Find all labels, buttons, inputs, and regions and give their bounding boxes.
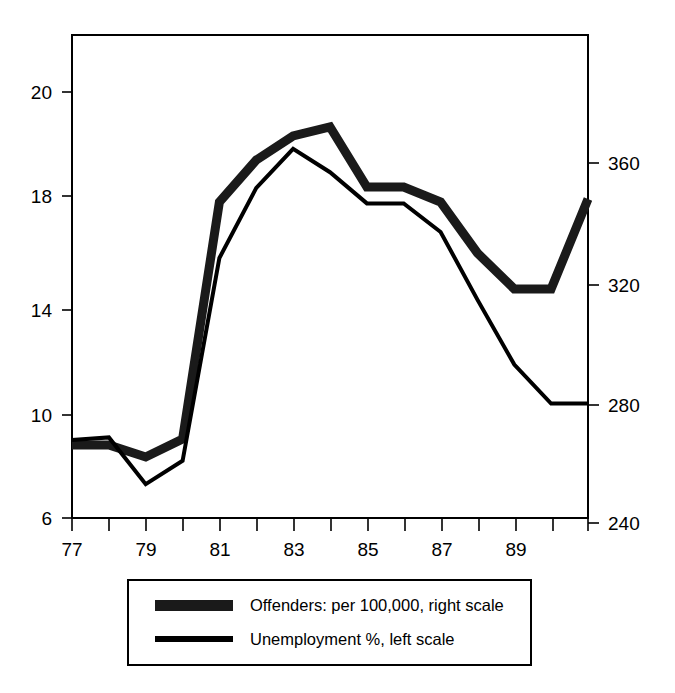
series-line-offenders (72, 127, 588, 457)
x-tick-label-85: 85 (357, 539, 378, 560)
x-tick-label-79: 79 (135, 539, 156, 560)
left-tick-label-10: 10 (31, 405, 52, 426)
legend-swatch-offenders-icon (155, 600, 233, 611)
right-tick-label-280: 280 (608, 395, 640, 416)
x-tick-label-77: 77 (61, 539, 82, 560)
x-tick-label-83: 83 (283, 539, 304, 560)
chart-legend: Offenders: per 100,000, right scale Unem… (128, 580, 531, 665)
x-axis-ticks (72, 518, 588, 531)
series-line-unemployment (72, 149, 588, 484)
legend-swatch-unemployment-icon (155, 636, 233, 642)
x-tick-label-81: 81 (209, 539, 230, 560)
left-axis-ticks (62, 92, 72, 518)
legend-border (128, 580, 531, 665)
left-tick-label-6: 6 (41, 508, 52, 529)
left-tick-label-18: 18 (31, 186, 52, 207)
left-axis-tick-labels: 20 18 14 10 6 (31, 82, 53, 529)
dual-axis-line-chart: 20 18 14 10 6 360 320 280 240 (0, 0, 675, 693)
right-tick-label-320: 320 (608, 275, 640, 296)
legend-label-unemployment: Unemployment %, left scale (250, 630, 455, 648)
legend-label-offenders: Offenders: per 100,000, right scale (250, 596, 504, 614)
right-tick-label-360: 360 (608, 153, 640, 174)
right-axis-tick-labels: 360 320 280 240 (608, 153, 640, 534)
right-axis-ticks (588, 163, 599, 523)
left-tick-label-20: 20 (31, 82, 52, 103)
left-tick-label-14: 14 (31, 300, 53, 321)
x-tick-label-89: 89 (505, 539, 526, 560)
data-series-group (72, 127, 588, 484)
right-tick-label-240: 240 (608, 513, 640, 534)
chart-figure: 20 18 14 10 6 360 320 280 240 (0, 0, 675, 693)
plot-frame (72, 35, 588, 518)
x-axis-tick-labels: 77 79 81 83 85 87 89 (61, 539, 526, 560)
x-tick-label-87: 87 (431, 539, 452, 560)
